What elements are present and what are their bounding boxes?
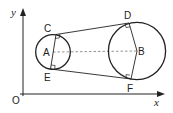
y-axis-arrow-icon xyxy=(20,8,26,16)
axes: y O x xyxy=(10,6,165,108)
x-axis-label: x xyxy=(153,96,159,108)
label-C: C xyxy=(44,23,51,34)
y-axis-label: y xyxy=(10,6,16,18)
label-D: D xyxy=(124,10,131,21)
label-B: B xyxy=(138,46,145,57)
line-AB xyxy=(53,51,137,52)
label-A: A xyxy=(43,47,50,58)
tangent-EF xyxy=(51,69,132,79)
origin-label: O xyxy=(12,95,20,106)
label-F: F xyxy=(127,83,133,94)
geometry-diagram: y O x C A E D B F xyxy=(0,0,173,113)
label-E: E xyxy=(44,72,51,83)
